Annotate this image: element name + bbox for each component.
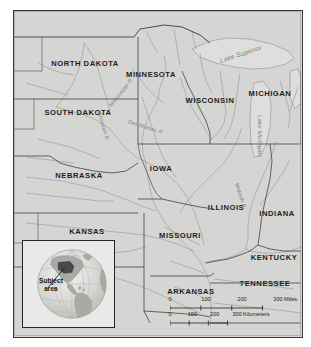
scale-miles-tick-labels: 0100200300Miles — [170, 296, 296, 304]
scale-kilometers-unit: Kilometers — [243, 311, 269, 317]
subject-area-label-line2: area — [44, 285, 58, 292]
state-label-wisconsin: WISCONSIN — [186, 96, 235, 105]
scale-miles-tick-0: 0 — [168, 296, 171, 302]
scale-miles-graphic — [170, 305, 278, 311]
scale-km-tick-labels: 0100200300Kilometers — [170, 311, 296, 319]
state-label-kentucky: KENTUCKY — [251, 253, 298, 262]
scale-bar-kilometers: 0100200300Kilometers — [170, 311, 296, 327]
state-label-michigan: MICHIGAN — [249, 89, 292, 98]
subject-area-label: Subject area — [31, 277, 71, 294]
scale-kilometers-tick-300: 300 — [232, 311, 241, 317]
state-label-tennessee: TENNESSEE — [240, 279, 291, 288]
scale-bars: 0100200300Miles 0100200300Kilometers — [170, 296, 296, 330]
scale-miles-tick-100: 100 — [201, 296, 210, 302]
scale-kilometers-tick-200: 200 — [210, 311, 219, 317]
map-figure: NORTH DAKOTASOUTH DAKOTANEBRASKAKANSASMI… — [0, 0, 311, 347]
state-label-arkansas: ARKANSAS — [167, 287, 214, 296]
scale-kilometers-tick-100: 100 — [188, 311, 197, 317]
scale-miles-tick-200: 200 — [237, 296, 246, 302]
state-label-nebraska: NEBRASKA — [55, 171, 102, 180]
subject-area-inset: Subject area — [22, 240, 115, 328]
state-label-indiana: INDIANA — [259, 209, 295, 218]
hydro-label-lake-michigan: Lake Michigan — [257, 115, 263, 156]
state-label-illinois: ILLINOIS — [208, 203, 244, 212]
subject-area-label-line1: Subject — [39, 277, 63, 284]
scale-miles-unit: Miles — [284, 296, 297, 302]
state-label-missouri: MISSOURI — [159, 231, 201, 240]
state-label-minnesota: MINNESOTA — [126, 70, 176, 79]
scale-miles-tick-300: 300 — [273, 296, 282, 302]
state-label-iowa: IOWA — [150, 164, 172, 173]
scale-bar-miles: 0100200300Miles — [170, 296, 296, 312]
scale-km-graphic — [170, 320, 278, 326]
state-label-kansas: KANSAS — [69, 227, 104, 236]
scale-kilometers-tick-0: 0 — [168, 311, 171, 317]
state-label-north-dakota: NORTH DAKOTA — [51, 59, 119, 68]
